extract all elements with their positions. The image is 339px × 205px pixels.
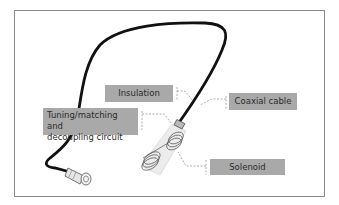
label-coaxial-cable: Coaxial cable (229, 93, 297, 110)
label-tuning-line1: Tuning/matching and (47, 110, 134, 132)
label-insulation: Insulation (105, 85, 173, 102)
bnc-connector-icon (65, 168, 91, 185)
label-tuning-line2: decoupling circuit (47, 132, 134, 143)
label-tuning-matching-circuit: Tuning/matching and decoupling circuit (43, 108, 138, 135)
label-solenoid: Solenoid (210, 159, 285, 175)
